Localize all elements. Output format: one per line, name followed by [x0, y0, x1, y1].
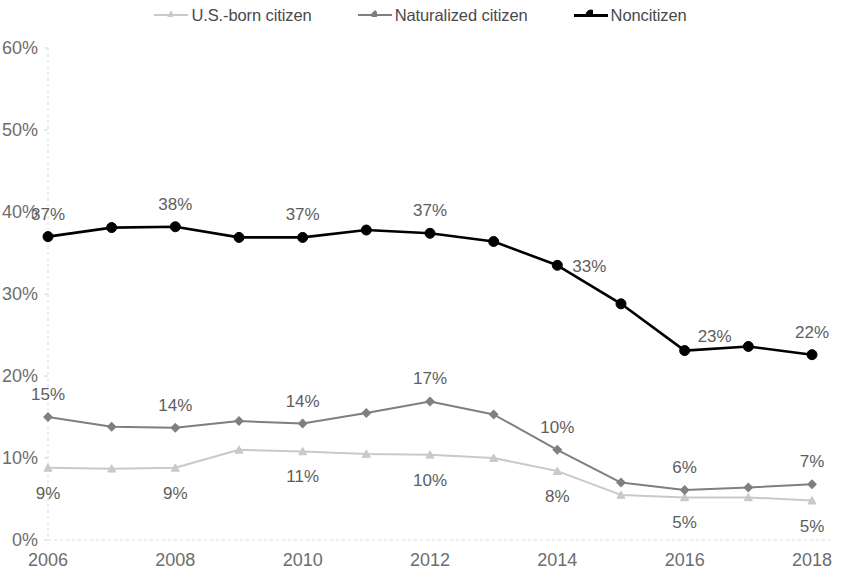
data-point-label: 6%	[672, 458, 697, 478]
data-point-marker	[234, 232, 244, 242]
data-point-label: 17%	[413, 369, 447, 389]
data-point-marker	[489, 237, 499, 247]
data-point-marker	[299, 420, 307, 428]
data-point-label: 9%	[36, 484, 61, 504]
data-point-marker	[298, 232, 308, 242]
x-axis-tick-label: 2012	[390, 550, 470, 571]
data-point-label: 9%	[163, 484, 188, 504]
data-point-marker	[170, 222, 180, 232]
data-point-label: 33%	[572, 257, 606, 277]
y-axis-tick-label: 50%	[0, 120, 38, 141]
x-axis-tick-label: 2016	[645, 550, 725, 571]
data-point-label: 7%	[800, 452, 825, 472]
plot-area: 0%10%20%30%40%50%60% 2006200820102012201…	[0, 0, 841, 574]
data-point-label: 5%	[672, 513, 697, 533]
y-axis-tick-label: 10%	[0, 448, 38, 469]
data-point-label: 14%	[158, 396, 192, 416]
y-axis-tick-label: 20%	[0, 366, 38, 387]
x-axis-tick-label: 2010	[263, 550, 343, 571]
data-point-marker	[616, 299, 626, 309]
data-point-label: 10%	[540, 418, 574, 438]
x-axis-tick-label: 2008	[135, 550, 215, 571]
data-point-marker	[44, 413, 52, 421]
data-point-label: 23%	[698, 327, 732, 347]
data-point-marker	[681, 486, 689, 494]
y-axis-tick-label: 0%	[0, 530, 38, 551]
data-point-label: 22%	[795, 323, 829, 343]
data-point-marker	[107, 223, 117, 233]
data-point-marker	[807, 350, 817, 360]
data-point-marker	[743, 341, 753, 351]
data-point-marker	[426, 397, 434, 405]
data-point-marker	[235, 417, 243, 425]
data-point-label: 37%	[286, 205, 320, 225]
data-point-marker	[490, 411, 498, 419]
data-point-label: 38%	[158, 195, 192, 215]
x-axis-tick-label: 2014	[517, 550, 597, 571]
data-point-label: 11%	[286, 467, 319, 487]
data-point-label: 15%	[31, 385, 65, 405]
data-point-label: 8%	[545, 487, 570, 507]
data-point-label: 14%	[286, 392, 320, 412]
data-point-marker	[362, 409, 370, 417]
data-point-marker	[617, 479, 625, 487]
data-point-marker	[361, 225, 371, 235]
data-point-label: 10%	[413, 471, 447, 491]
data-point-marker	[108, 423, 116, 431]
x-axis-tick-label: 2018	[772, 550, 841, 571]
chart-container: U.S.-born citizenNaturalized citizenNonc…	[0, 0, 841, 574]
data-point-label: 5%	[800, 517, 825, 537]
x-axis-tick-label: 2006	[8, 550, 88, 571]
data-point-marker	[808, 480, 816, 488]
data-point-label: 37%	[413, 201, 447, 221]
data-point-label: 37%	[31, 205, 65, 225]
y-axis-tick-label: 30%	[0, 284, 38, 305]
data-point-marker	[425, 228, 435, 238]
data-point-marker	[43, 232, 53, 242]
data-point-marker	[744, 484, 752, 492]
data-point-marker	[171, 424, 179, 432]
data-point-marker	[553, 446, 561, 454]
y-axis-tick-label: 60%	[0, 38, 38, 59]
data-point-marker	[680, 346, 690, 356]
data-point-marker	[552, 260, 562, 270]
